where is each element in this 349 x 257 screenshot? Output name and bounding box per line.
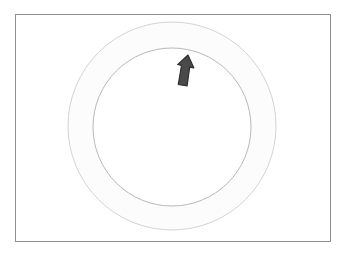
dial-panel-scene: Circular dial control Rectangular panel … <box>0 0 349 257</box>
scene-description: Rectangular panel containing a concentri… <box>0 0 1 1</box>
frame-label: Panel frame <box>0 0 1 1</box>
dial-label: Dial <box>0 0 1 1</box>
inner-circle-label: Inner dial face <box>0 0 1 1</box>
pointer-label: Arrow pointer <box>0 0 1 1</box>
outer-circle-label: Outer ring edge <box>0 0 1 1</box>
panel-frame <box>15 14 331 242</box>
scene-title: Circular dial control <box>0 0 1 1</box>
